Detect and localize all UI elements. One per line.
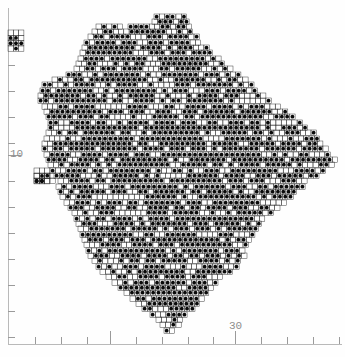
cell-outlines — [8, 14, 338, 333]
distribution-map-figure: 10 30 — [0, 0, 345, 357]
map-svg — [0, 0, 345, 357]
grid-distribution-map — [0, 0, 345, 357]
